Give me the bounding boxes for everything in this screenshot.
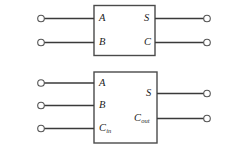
cin-subscript: in	[106, 127, 111, 134]
half-adder-output-c-terminal[interactable]	[204, 39, 211, 46]
full-adder-input-a-terminal[interactable]	[38, 80, 45, 87]
half-adder-input-b-terminal[interactable]	[38, 39, 45, 46]
full-adder-input-a-label: A	[99, 78, 105, 89]
full-adder-input-b-label: B	[99, 100, 105, 111]
full-adder-input-cin-label: Cin	[99, 123, 111, 134]
half-adder-input-a-label: A	[99, 13, 105, 24]
full-adder-output-s-label: S	[146, 88, 151, 99]
half-adder-output-s-terminal[interactable]	[204, 15, 211, 22]
full-adder-input-cin-terminal[interactable]	[38, 125, 45, 132]
full-adder-output-s-terminal[interactable]	[204, 90, 211, 97]
cout-subscript: out	[141, 117, 149, 124]
half-adder-input-b-label: B	[99, 37, 105, 48]
half-adder-input-a-terminal[interactable]	[38, 15, 45, 22]
half-adder-output-c-label: C	[144, 37, 151, 48]
full-adder-output-cout-label: Cout	[134, 113, 149, 124]
diagram-svg	[0, 0, 234, 149]
half-adder-output-s-label: S	[144, 13, 149, 24]
full-adder-output-cout-terminal[interactable]	[204, 115, 211, 122]
full-adder-input-b-terminal[interactable]	[38, 102, 45, 109]
circuit-diagram-canvas: A B S C A B Cin S Cout	[0, 0, 234, 149]
